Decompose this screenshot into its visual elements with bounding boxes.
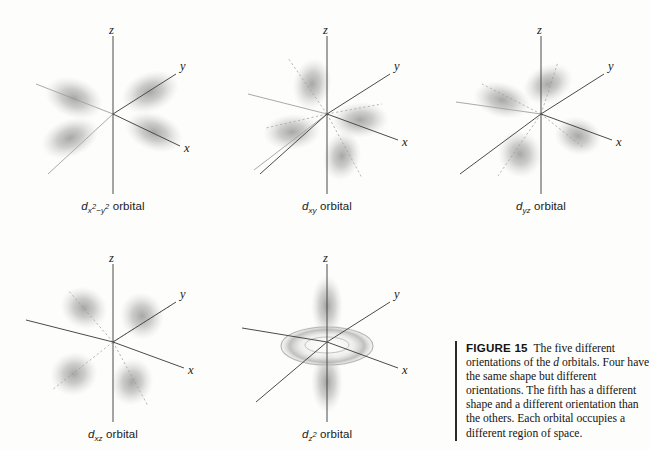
orbital-diagram-dz2: z y x xyxy=(222,250,432,435)
axis-label-y: y xyxy=(606,59,614,73)
axis-label-z: z xyxy=(322,251,328,265)
orbital-diagram-dyz: z y x xyxy=(436,22,646,207)
axis-label-y: y xyxy=(178,287,186,301)
axis-label-y: y xyxy=(392,287,400,301)
orbital-caption-dx2-y2: dx2−y2 orbital xyxy=(8,200,218,215)
axis-label-z: z xyxy=(108,23,114,37)
orbital-panel-dx2-y2: z y x dx2−y2 orbital xyxy=(8,22,218,222)
figure-15-d-orbitals: z y x dx2−y2 orbital z xyxy=(0,0,650,450)
axis-label-x: x xyxy=(615,135,622,149)
orbital-lobes xyxy=(45,279,169,411)
axis-label-y: y xyxy=(178,59,186,73)
orbital-caption-dxz: dxz orbital xyxy=(8,428,218,443)
axis-label-z: z xyxy=(108,251,114,265)
orbital-caption-dz2: dz2 orbital xyxy=(222,428,432,443)
orbital-lobes xyxy=(470,56,607,184)
orbital-panel-dxz: z y x dxz orbital xyxy=(8,250,218,450)
axis-label-x: x xyxy=(401,363,408,377)
axis-label-x: x xyxy=(183,141,190,155)
axis-label-y: y xyxy=(392,59,400,73)
axis-label-z: z xyxy=(322,23,328,37)
orbital-panel-dz2: z y x dz2 orbital xyxy=(222,250,432,450)
orbital-panel-dyz: z y x dyz orbital xyxy=(436,22,646,222)
orbital-caption-dxy: dxy orbital xyxy=(222,200,432,215)
orbital-panel-dxy: z y x dxy orbital xyxy=(222,22,432,222)
axis-label-z: z xyxy=(536,23,542,37)
orbital-lobes xyxy=(262,55,390,185)
orbital-caption-dyz: dyz orbital xyxy=(436,200,646,215)
figure-number: FIGURE 15 xyxy=(466,341,528,354)
figure-caption: FIGURE 15 The five different orientation… xyxy=(455,341,650,441)
orbital-diagram-dx2-y2: z y x xyxy=(8,22,218,207)
axis-label-x: x xyxy=(401,135,408,149)
axis-label-x: x xyxy=(187,363,194,377)
orbital-diagram-dxz: z y x xyxy=(8,250,218,435)
orbital-diagram-dxy: z y x xyxy=(222,22,432,207)
